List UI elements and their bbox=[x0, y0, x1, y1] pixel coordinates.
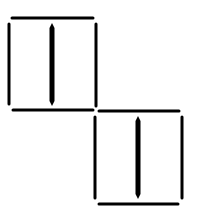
lower-right-square bbox=[95, 111, 182, 204]
upper-left-square bbox=[9, 18, 96, 110]
two-squares-diagram bbox=[0, 0, 199, 215]
vertical-bar bbox=[136, 116, 141, 199]
vertical-bar bbox=[50, 23, 55, 106]
